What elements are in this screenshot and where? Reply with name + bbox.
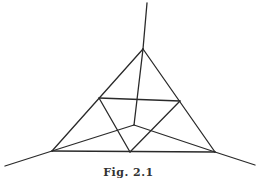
segment-center-right [134, 125, 215, 152]
segment-top_end-apex [143, 3, 147, 49]
segment-inner_left-inner_right [99, 98, 180, 101]
geometric-figure [0, 0, 257, 178]
segment-inner_left-bottom_mid [99, 98, 130, 152]
segment-left_end-left [5, 151, 52, 166]
segment-apex-center [134, 49, 143, 125]
figure-caption: Fig. 2.1 [0, 166, 257, 178]
segment-right-right_end [215, 152, 255, 165]
segment-left-right [52, 151, 215, 152]
segment-apex-left [52, 49, 143, 151]
